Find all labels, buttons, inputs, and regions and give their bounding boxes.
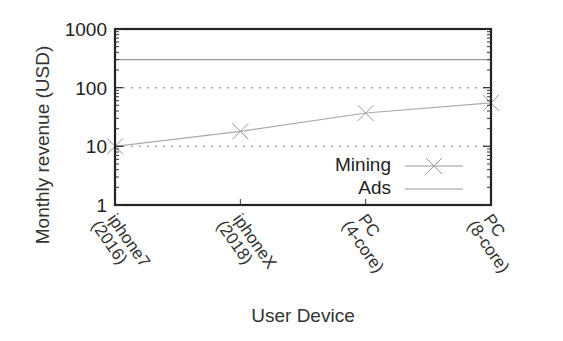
plot-frame [115,29,491,205]
revenue-chart: 1101001000 iphone7(2016)iphoneX(2018)PC(… [0,0,563,341]
x-tick-labels: iphone7(2016)iphoneX(2018)PC(4-core)PC(8… [88,207,528,282]
legend-label-ads: Ads [358,177,391,198]
grid-lines [115,88,491,147]
x-axis-title: User Device [251,305,354,326]
y-minor-ticks [115,29,491,205]
y-tick-labels: 1101001000 [65,19,107,216]
y-tick-label: 1 [96,195,107,216]
x-tick-label: iphone7(2016) [88,207,154,280]
series-mining [107,95,499,154]
x-tick-label: PC(4-core) [338,207,402,276]
y-tick-label: 100 [75,78,107,99]
x-marker-icon [232,123,248,139]
legend-label-mining: Mining [335,154,391,175]
x-tick-label: iphoneX(2018) [213,207,281,282]
x-tick-label: PC(8-core) [464,207,528,276]
y-tick-label: 10 [86,136,107,157]
y-tick-label: 1000 [65,19,107,40]
legend: Mining Ads [335,154,463,198]
y-axis-title: Monthly revenue (USD) [32,46,53,245]
